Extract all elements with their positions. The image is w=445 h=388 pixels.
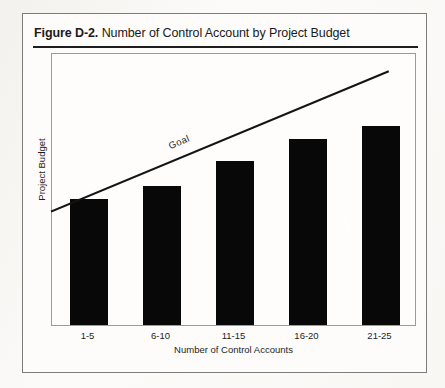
goal-annotation-label: Goal <box>167 133 191 151</box>
bar-21-25 <box>362 126 400 325</box>
figure-label: Figure D-2. <box>34 26 98 40</box>
plot-area: Goal <box>52 54 415 325</box>
scan-blemish <box>342 215 354 232</box>
caption-divider <box>33 46 418 48</box>
x-tick-16-20: 16-20 <box>277 330 337 341</box>
bar-6-10 <box>143 186 181 325</box>
plot-frame: Goal <box>51 53 416 326</box>
x-axis-title: Number of Control Accounts <box>51 344 416 355</box>
figure-card: Figure D-2. Number of Control Account by… <box>22 13 427 373</box>
x-tick-21-25: 21-25 <box>350 330 410 341</box>
scan-speck <box>202 142 205 145</box>
x-tick-1-5: 1-5 <box>58 330 118 341</box>
figure-title: Number of Control Account by Project Bud… <box>102 26 350 40</box>
x-tick-6-10: 6-10 <box>131 330 191 341</box>
bar-16-20 <box>289 139 327 325</box>
bar-11-15 <box>216 161 254 325</box>
page-background: Figure D-2. Number of Control Account by… <box>0 0 445 388</box>
y-axis-title: Project Budget <box>36 125 47 215</box>
x-tick-11-15: 11-15 <box>204 330 264 341</box>
bar-1-5 <box>70 199 108 325</box>
figure-caption: Figure D-2. Number of Control Account by… <box>34 24 418 44</box>
